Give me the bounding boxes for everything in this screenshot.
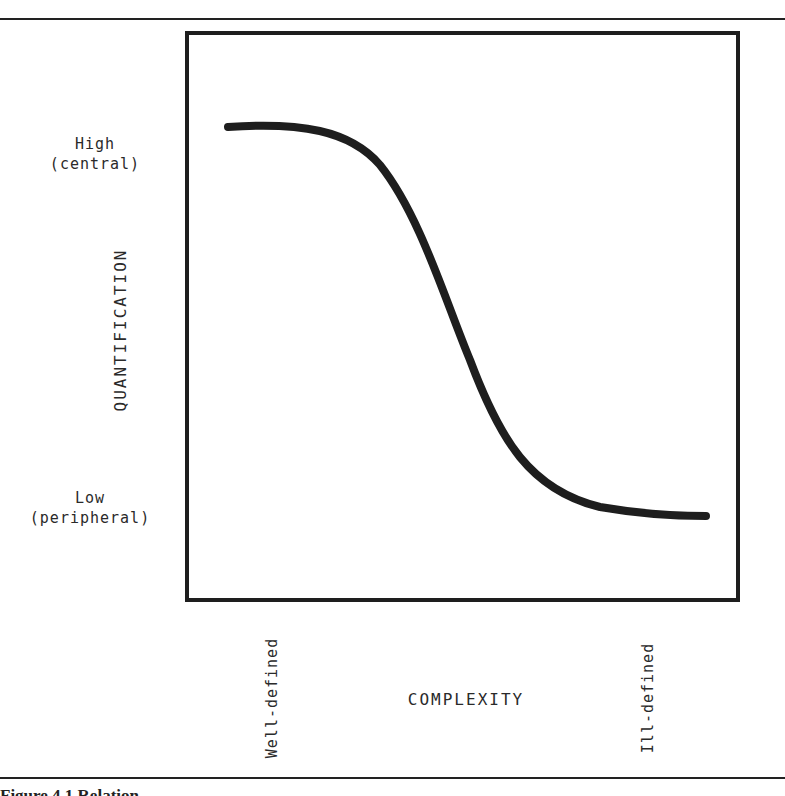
sigmoid-curve-line xyxy=(228,126,706,516)
x-tick-ill-defined: Ill-defined xyxy=(639,643,657,753)
y-tick-high-line2: (central) xyxy=(30,154,160,174)
x-tick-well-defined: Well-defined xyxy=(263,638,281,758)
figure-caption: Figure 4.1 Relation... xyxy=(0,786,785,796)
bottom-rule xyxy=(0,777,785,779)
y-tick-low-line2: (peripheral) xyxy=(0,508,180,528)
y-tick-low: Low (peripheral) xyxy=(0,488,180,528)
x-axis-title: COMPLEXITY xyxy=(408,690,524,709)
y-tick-high-line1: High xyxy=(30,134,160,154)
y-tick-low-line1: Low xyxy=(0,488,180,508)
y-tick-high: High (central) xyxy=(30,134,160,174)
y-axis-title: QUANTIFICATION xyxy=(111,249,130,412)
